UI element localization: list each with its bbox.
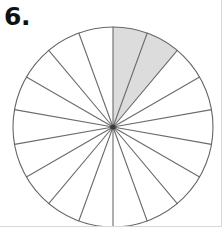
fraction-circle-diagram: [0, 0, 222, 227]
worksheet-figure-panel: 6.: [0, 0, 222, 227]
center-point: [110, 124, 115, 129]
page-title: 6.: [4, 2, 30, 32]
